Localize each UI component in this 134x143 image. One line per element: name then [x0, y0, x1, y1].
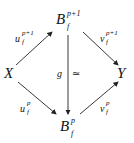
node-right: Y	[117, 66, 125, 81]
label-equiv: ≃	[72, 69, 80, 79]
arrow-bottom-to-y	[80, 82, 118, 114]
label-g: g	[57, 69, 62, 79]
node-left: X	[4, 66, 13, 81]
